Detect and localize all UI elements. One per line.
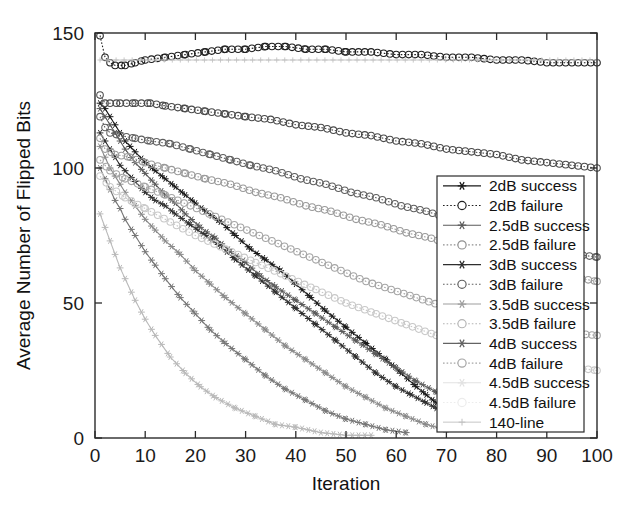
x-tick-label: 40 [285,445,306,466]
legend-marker-circle [458,201,466,209]
legend-label: 4.5dB failure [489,394,576,411]
y-tick-label: 0 [73,428,84,449]
x-tick-label: 30 [235,445,256,466]
legend-label: 4dB success [489,335,577,352]
legend-marker-circle [458,241,466,249]
x-tick-label: 100 [581,445,613,466]
legend-label: 2.5dB failure [489,236,576,253]
legend-marker-circle [458,359,466,367]
legend-label: 4.5dB success [489,374,590,391]
legend-label: 2dB failure [489,197,563,214]
y-tick-label: 150 [52,23,84,44]
legend-label: 4dB failure [489,355,563,372]
legend-label: 3.5dB failure [489,315,576,332]
chart-figure: 0102030405060708090100050100150Iteration… [0,0,641,520]
x-tick-label: 20 [185,445,206,466]
y-axis-label: Average Number of Flipped Bits [13,101,34,370]
x-axis-label: Iteration [312,473,381,494]
x-tick-label: 80 [486,445,507,466]
legend-label: 2.5dB success [489,217,590,234]
x-tick-label: 50 [335,445,356,466]
x-tick-label: 70 [436,445,457,466]
legend-label: 140-line [489,414,544,431]
legend-marker-circle [458,320,466,328]
legend-label: 3dB success [489,256,577,273]
x-tick-label: 60 [386,445,407,466]
legend: 2dB success2dB failure2.5dB success2.5dB… [437,176,590,432]
y-tick-label: 100 [52,158,84,179]
flipped-bits-chart: 0102030405060708090100050100150Iteration… [0,0,641,520]
legend-label: 2dB success [489,177,577,194]
x-tick-label: 90 [536,445,557,466]
legend-label: 3.5dB success [489,296,590,313]
x-tick-label: 0 [90,445,101,466]
legend-label: 3dB failure [489,276,563,293]
legend-marker-circle [458,398,466,406]
x-tick-label: 10 [135,445,156,466]
y-tick-label: 50 [63,293,84,314]
legend-marker-circle [458,280,466,288]
